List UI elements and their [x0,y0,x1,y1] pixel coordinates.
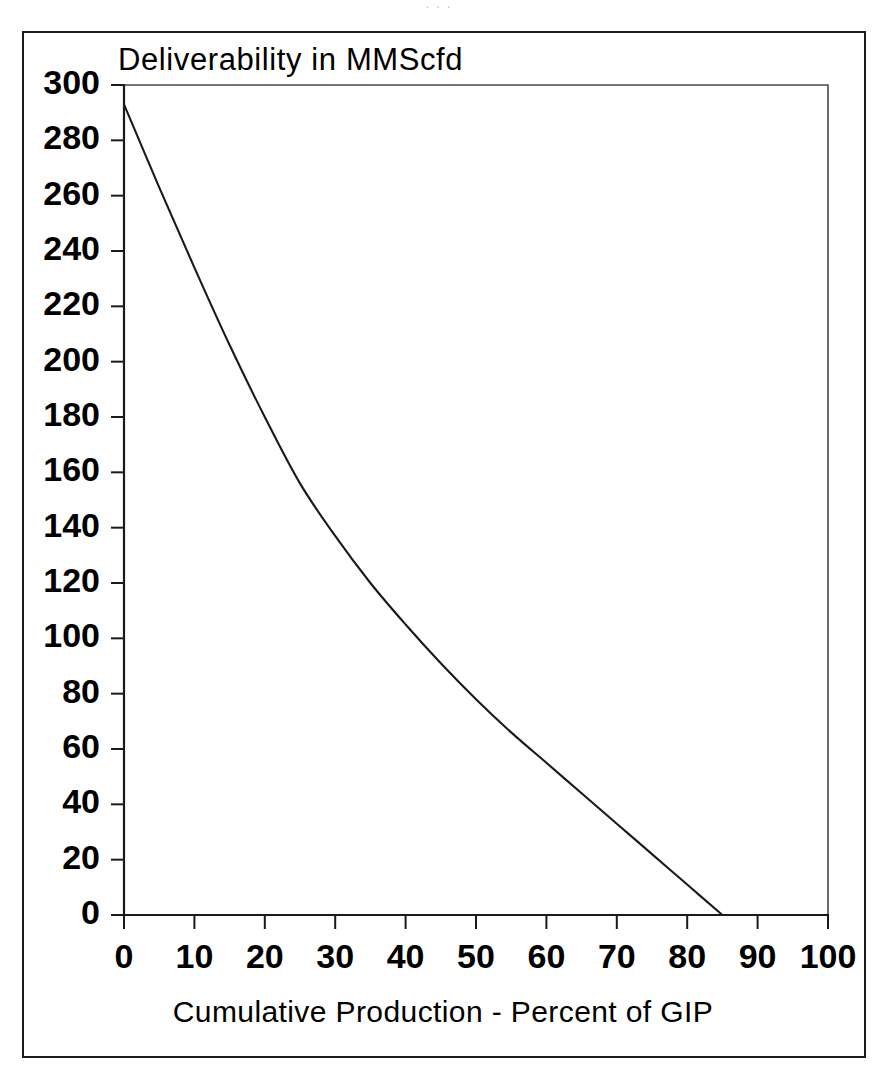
y-tick-label: 40 [62,782,100,820]
y-tick-label: 280 [43,118,100,156]
series-line-deliverability [124,104,722,915]
y-tick-label: 0 [81,893,100,931]
axis-lines [124,85,828,915]
plot-area-border [124,85,828,915]
y-tick-label: 180 [43,395,100,433]
y-axis-ticks [111,85,124,915]
x-tick-label: 50 [457,937,495,975]
y-tick-label: 200 [43,340,100,378]
y-tick-label: 20 [62,838,100,876]
x-axis-ticks [124,915,828,929]
y-tick-label: 240 [43,229,100,267]
y-tick-label: 300 [43,63,100,101]
series-group [124,104,722,915]
x-tick-label: 40 [387,937,425,975]
y-tick-label: 260 [43,174,100,212]
x-tick-label: 90 [739,937,777,975]
x-tick-label: 20 [246,937,284,975]
x-tick-label: 0 [115,937,134,975]
y-tick-label: 60 [62,727,100,765]
x-axis-title: Cumulative Production - Percent of GIP [173,995,713,1028]
y-tick-label: 100 [43,616,100,654]
y-axis-tick-labels: 0204060801001201401601802002202402602803… [43,63,100,931]
x-axis-tick-labels: 0102030405060708090100 [115,937,857,975]
chart-plot-stage: 0204060801001201401601802002202402602803… [0,0,878,1078]
y-tick-label: 140 [43,506,100,544]
deliverability-line-chart: 0204060801001201401601802002202402602803… [0,0,878,1078]
y-tick-label: 80 [62,672,100,710]
y-tick-label: 160 [43,450,100,488]
x-tick-label: 70 [598,937,636,975]
x-tick-label: 100 [800,937,857,975]
y-tick-label: 220 [43,284,100,322]
x-tick-label: 60 [527,937,565,975]
chart-title: Deliverability in MMScfd [118,42,463,77]
x-tick-label: 10 [175,937,213,975]
y-tick-label: 120 [43,561,100,599]
x-tick-label: 80 [668,937,706,975]
x-tick-label: 30 [316,937,354,975]
